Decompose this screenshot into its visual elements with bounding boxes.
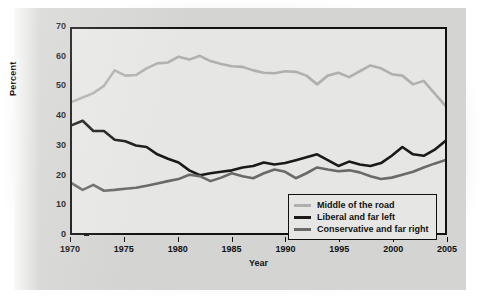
legend-item: Liberal and far left [294, 211, 429, 223]
x-tick-label: 1970 [60, 244, 80, 254]
x-tick-mark [447, 237, 448, 242]
legend-label: Liberal and far left [317, 213, 395, 222]
x-tick-label: 2005 [437, 244, 457, 254]
legend-swatch-icon [294, 228, 311, 231]
legend-swatch-icon [294, 204, 311, 207]
y-tick-mark [84, 235, 89, 236]
x-tick-label: 1980 [168, 244, 188, 254]
y-tick-label: 0 [40, 230, 66, 239]
x-tick-label: 1985 [222, 244, 242, 254]
x-tick-mark [232, 237, 233, 242]
y-tick-label: 50 [40, 81, 66, 90]
legend-item: Conservative and far right [294, 223, 429, 235]
series-line [72, 121, 445, 175]
y-axis-label: Percent [8, 62, 18, 96]
x-tick-label: 1995 [329, 244, 349, 254]
legend-swatch-icon [294, 216, 311, 219]
x-axis-label: Year [70, 258, 447, 268]
legend-item: Middle of the road [294, 199, 429, 211]
y-tick-label: 10 [40, 200, 66, 209]
x-tick-mark [70, 237, 71, 242]
y-tick-label: 60 [40, 52, 66, 61]
figure-stage: Percent 010203040506070 1970197519801985… [0, 0, 482, 302]
chart-legend: Middle of the roadLiberal and far leftCo… [288, 194, 437, 240]
x-tick-label: 1990 [275, 244, 295, 254]
y-tick-label: 30 [40, 141, 66, 150]
x-tick-mark [285, 237, 286, 242]
legend-label: Middle of the road [317, 201, 395, 210]
legend-label: Conservative and far right [317, 225, 429, 234]
x-tick-mark [178, 237, 179, 242]
x-tick-label: 2000 [383, 244, 403, 254]
x-tick-mark [124, 237, 125, 242]
y-tick-label: 40 [40, 111, 66, 120]
y-tick-label: 70 [40, 22, 66, 31]
series-line [72, 56, 445, 106]
figure-card: Percent 010203040506070 1970197519801985… [14, 8, 466, 290]
x-tick-label: 1975 [114, 244, 134, 254]
y-tick-label: 20 [40, 171, 66, 180]
y-axis-ticks: 010203040506070 [32, 27, 66, 235]
